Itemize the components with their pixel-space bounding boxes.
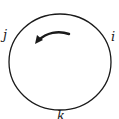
diagram-canvas [0, 0, 119, 119]
counter-clockwise-arrow-icon [35, 32, 69, 44]
node-label-k: k [57, 109, 65, 119]
cycle-circle [9, 14, 111, 110]
node-label-i: i [111, 30, 115, 43]
node-label-j: j [3, 28, 7, 41]
